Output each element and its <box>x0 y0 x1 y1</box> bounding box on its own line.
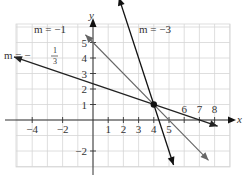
svg-text:4: 4 <box>151 123 157 135</box>
svg-text:3: 3 <box>136 123 142 135</box>
svg-text:3: 3 <box>82 68 88 80</box>
label-slope-neg-third-num: 1 <box>53 46 57 55</box>
graph: −4−212345678−212345 x y m = −1 m = −3 m … <box>0 0 252 176</box>
svg-text:−2: −2 <box>75 145 87 157</box>
svg-text:1: 1 <box>82 99 88 111</box>
svg-text:6: 6 <box>181 103 187 115</box>
axes <box>5 18 236 175</box>
svg-text:4: 4 <box>82 52 88 64</box>
y-axis-label: y <box>88 9 94 21</box>
svg-text:1: 1 <box>105 123 111 135</box>
label-slope-neg1: m = −1 <box>34 23 66 35</box>
label-slope-neg-third: m = − <box>4 49 30 61</box>
svg-text:5: 5 <box>82 37 88 49</box>
svg-text:−2: −2 <box>57 123 69 135</box>
x-axis-label: x <box>236 113 242 125</box>
svg-text:2: 2 <box>82 83 88 95</box>
grid <box>16 24 230 167</box>
label-slope-neg3: m = −3 <box>139 23 171 35</box>
svg-text:8: 8 <box>212 103 218 115</box>
svg-text:2: 2 <box>121 123 127 135</box>
svg-text:5: 5 <box>166 123 172 135</box>
svg-text:−4: −4 <box>26 123 38 135</box>
label-slope-neg-third-den: 3 <box>53 57 57 66</box>
svg-text:7: 7 <box>197 103 203 115</box>
